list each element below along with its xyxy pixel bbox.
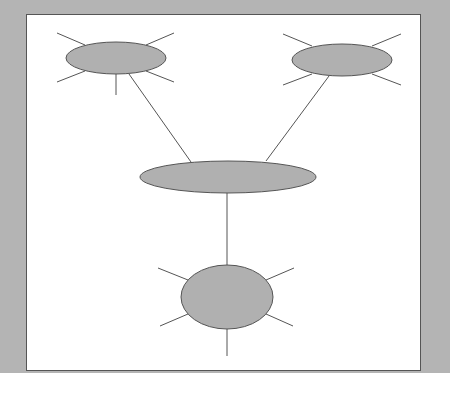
node-top-right <box>292 44 392 76</box>
spoke-top-right-0 <box>283 34 312 46</box>
spoke-top-left-2 <box>57 71 85 82</box>
spoke-top-right-2 <box>283 74 312 85</box>
spoke-top-right-1 <box>372 34 401 46</box>
spoke-bottom-3 <box>266 314 293 326</box>
spoke-bottom-1 <box>266 268 294 280</box>
spoke-top-left-3 <box>146 71 174 82</box>
spoke-bottom-0 <box>158 268 188 280</box>
edge-top-right-center-hub <box>266 76 329 161</box>
node-bottom <box>181 265 273 329</box>
node-top-left <box>66 42 166 74</box>
spoke-top-right-3 <box>372 74 401 85</box>
diagram-canvas <box>0 0 450 400</box>
spoke-top-left-1 <box>146 33 174 45</box>
spoke-bottom-2 <box>160 314 188 326</box>
node-center-hub <box>140 161 316 193</box>
spoke-top-left-0 <box>57 33 85 45</box>
edge-top-left-center-hub <box>129 74 191 162</box>
